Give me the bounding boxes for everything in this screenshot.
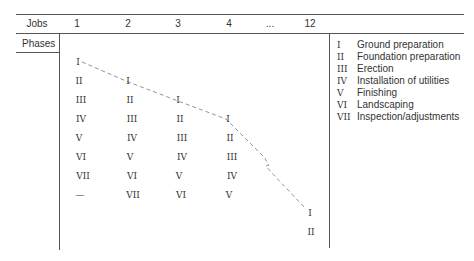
phase-cell: II [226,133,233,143]
phase-legend: I Ground preparation II Foundation prepa… [337,39,460,123]
phase-cell: I [176,95,180,105]
phase-cell: VII [126,190,140,200]
phase-cell: IV [177,152,187,162]
legend-numeral: VII [337,111,357,123]
legend-item: III Erection [337,63,460,75]
phase-cell: II [307,227,314,237]
phase-cell: III [177,133,188,143]
phase-cell: III [127,114,138,124]
legend-item: IV Installation of utilities [337,75,460,87]
legend-label: Landscaping [357,99,414,111]
legend-numeral: IV [337,75,357,87]
phase-cell: IV [76,114,86,124]
phase-cell: IV [227,171,237,181]
phase-cell: V [76,133,83,143]
legend-numeral: V [337,87,357,99]
phase-cell: II [126,95,133,105]
phase-cell: VI [176,190,186,200]
phase-cell: I [126,76,130,86]
phase-cell: V [127,152,134,162]
legend-label: Finishing [357,87,397,99]
phase-cell: I [226,114,230,124]
legend-item: I Ground preparation [337,39,460,51]
phase-cell: V [176,171,183,181]
legend-numeral: III [337,63,357,75]
legend-label: Installation of utilities [357,75,449,87]
legend-label: Inspection/adjustments [357,111,459,123]
phase-cell: II [176,114,183,124]
legend-numeral: VI [337,99,357,111]
phase-cell: VI [76,152,86,162]
legend-label: Foundation preparation [357,51,460,63]
legend-item: II Foundation preparation [337,51,460,63]
phase-cell: V [226,190,233,200]
legend-numeral: II [337,51,357,63]
legend-label: Erection [357,63,394,75]
phase-cell: III [76,95,87,105]
phase-cell: IV [127,133,137,143]
phase-cell: — [76,190,85,200]
phase-cell: I [76,57,80,67]
legend-item: VII Inspection/adjustments [337,111,460,123]
phase-cell: II [75,76,82,86]
legend-label: Ground preparation [357,39,444,51]
phase-cell: I [308,208,312,218]
legend-item: V Finishing [337,87,460,99]
phase-cell: III [227,152,238,162]
phase-cell: VI [127,171,137,181]
legend-numeral: I [337,39,357,51]
legend-item: VI Landscaping [337,99,460,111]
phase-cell: VII [76,171,90,181]
